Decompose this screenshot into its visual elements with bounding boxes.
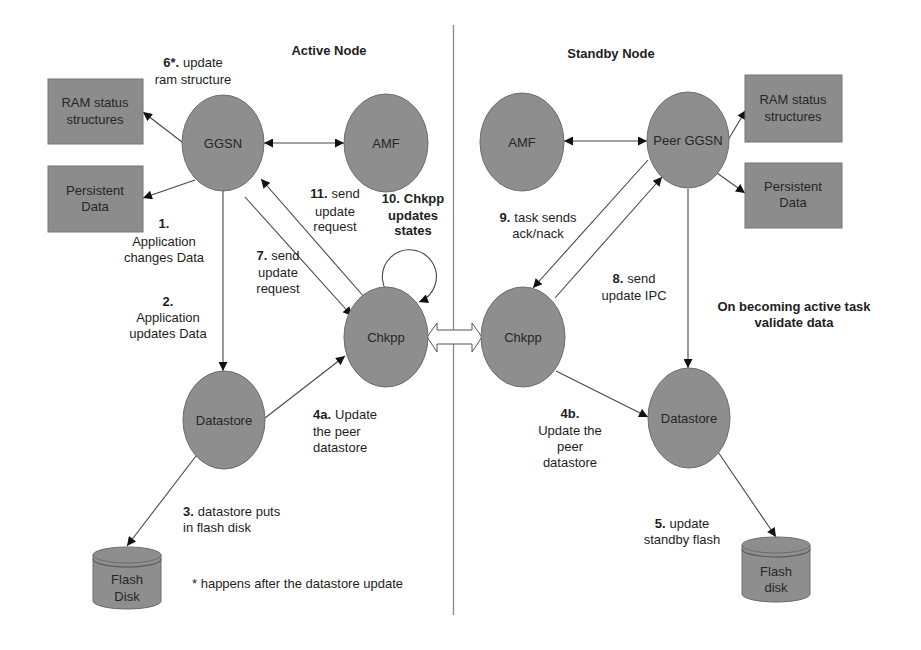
step-11-label: 11.send update request: [310, 186, 360, 234]
step-8-num: 8.: [612, 271, 623, 286]
standby-amf-node: AMF: [480, 93, 564, 191]
step-10-line2: states: [394, 223, 432, 238]
step-11-num: 11.: [310, 186, 327, 201]
step-5-head: update: [670, 516, 710, 531]
svg-text:10.Chkpp: 10.Chkpp: [382, 191, 445, 206]
step-1-line1: Application: [132, 234, 196, 249]
step-4a-line1: the peer: [313, 424, 361, 439]
step-7-num: 7.: [256, 248, 267, 263]
standby-flash-label-line2: disk: [764, 580, 788, 595]
standby-amf-label: AMF: [508, 135, 536, 150]
active-ggsn-node: GGSN: [182, 95, 264, 191]
step-4a-line2: datastore: [313, 440, 367, 455]
step-6-head: update: [183, 55, 223, 70]
footnote: * happens after the datastore update: [192, 576, 403, 591]
standby-ram-label-line1: RAM status: [759, 92, 827, 107]
step-5-num: 5.: [655, 516, 666, 531]
step-9-num: 9.: [500, 210, 511, 225]
step-4a-num: 4a.: [313, 407, 331, 422]
active-persistent-label-line2: Data: [81, 199, 109, 214]
active-ggsn-label: GGSN: [204, 136, 242, 151]
standby-note-line1: On becoming active task: [717, 299, 871, 314]
standby-flash-disk-cylinder-icon: Flash disk: [742, 537, 810, 602]
step-1-line2: changes Data: [124, 250, 205, 265]
active-amf-label: AMF: [372, 136, 400, 151]
step-6-line1: ram structure: [155, 72, 232, 87]
standby-peer-ggsn-label: Peer GGSN: [653, 133, 722, 148]
step-1-num: 1.: [159, 216, 170, 231]
step-3-head: datastore puts: [198, 504, 281, 519]
step-2-num: 2.: [163, 294, 174, 309]
step-5-label: 5.update standby flash: [644, 516, 721, 547]
standby-ram-label-line2: structures: [764, 109, 822, 124]
svg-text:8.send: 8.send: [612, 271, 655, 286]
standby-persistent-label-line1: Persistent: [764, 179, 822, 194]
svg-text:4a.Update: 4a.Update: [313, 407, 377, 422]
active-persistent-label-line1: Persistent: [66, 183, 124, 198]
active-amf-node: AMF: [344, 94, 428, 192]
step-4b-line1: Update the: [538, 423, 602, 438]
standby-flash-label-line1: Flash: [760, 564, 792, 579]
active-datastore-node: Datastore: [183, 371, 265, 469]
active-persistent-data-box: Persistent Data: [48, 166, 143, 232]
svg-text:6*.update: 6*.update: [163, 55, 223, 70]
step-7-line2: request: [256, 281, 300, 296]
step-4b-num: 4b.: [561, 406, 580, 421]
standby-peer-ggsn-node: Peer GGSN: [647, 92, 729, 188]
step-11-head: send: [332, 186, 360, 201]
step-5-line1: standby flash: [644, 532, 721, 547]
step-7-line1: update: [258, 265, 298, 280]
active-flash-label-line1: Flash: [111, 572, 143, 587]
checkpoint-flow-diagram: Active Node Standby Node RAM status stru…: [0, 0, 921, 650]
standby-datastore-node: Datastore: [648, 368, 730, 468]
active-datastore-label: Datastore: [196, 413, 252, 428]
step-7-label: 7.send update request: [256, 248, 300, 296]
active-chkpp-node: Chkpp: [344, 287, 428, 387]
step-9-head: task sends: [514, 210, 577, 225]
step-3-line1: in flash disk: [183, 520, 251, 535]
step-8-head: send: [627, 271, 655, 286]
step-11-line1: update: [315, 204, 355, 219]
standby-node-title: Standby Node: [567, 46, 654, 61]
step-9-line1: ack/nack: [512, 226, 564, 241]
step-11-line2: request: [313, 219, 357, 234]
standby-note-line2: validate data: [755, 315, 835, 330]
step-2-line2: updates Data: [129, 326, 207, 341]
standby-persistent-data-box: Persistent Data: [745, 163, 842, 228]
standby-persistent-label-line2: Data: [779, 195, 807, 210]
step-10-num: 10.: [382, 191, 400, 206]
active-flash-label-line2: Disk: [114, 589, 140, 604]
svg-text:3.datastore puts: 3.datastore puts: [183, 504, 281, 519]
svg-text:5.update: 5.update: [655, 516, 710, 531]
standby-datastore-label: Datastore: [661, 411, 717, 426]
standby-chkpp-node: Chkpp: [481, 287, 565, 387]
step-8-line1: update IPC: [601, 288, 666, 303]
step-3-num: 3.: [183, 504, 194, 519]
step-10-head: Chkpp: [404, 191, 445, 206]
active-ram-status-box: RAM status structures: [48, 79, 143, 144]
standby-chkpp-label: Chkpp: [504, 330, 542, 345]
step-4a-head: Update: [335, 407, 377, 422]
svg-text:7.send: 7.send: [256, 248, 299, 263]
svg-text:11.send: 11.send: [310, 186, 360, 201]
step-7-head: send: [271, 248, 299, 263]
active-ram-label-line1: RAM status: [61, 95, 129, 110]
step-6-num: 6*.: [163, 55, 179, 70]
step-4b-line3: datastore: [543, 455, 597, 470]
active-ram-label-line2: structures: [66, 112, 124, 127]
active-node-title: Active Node: [291, 43, 366, 58]
step-2-line1: Application: [136, 310, 200, 325]
active-chkpp-label: Chkpp: [367, 330, 405, 345]
active-flash-disk-cylinder-icon: Flash Disk: [93, 547, 161, 609]
step-10-line1: updates: [388, 208, 438, 223]
step-4b-line2: peer: [557, 439, 584, 454]
standby-ram-status-box: RAM status structures: [745, 75, 842, 142]
